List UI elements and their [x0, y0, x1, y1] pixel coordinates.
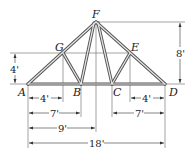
joint-label-d: D	[168, 86, 178, 99]
dim-7ft-right: 7'	[135, 108, 144, 119]
joint-label-b: B	[72, 86, 81, 99]
dim-4ft-left: 4'	[40, 93, 49, 104]
dim-8ft: 8'	[176, 48, 185, 59]
joint-label-a: A	[17, 86, 26, 99]
dim-4ft-vertical: 4'	[10, 64, 19, 75]
dim-7ft-left: 7'	[50, 108, 59, 119]
joint-label-f: F	[91, 8, 100, 21]
joint-label-c: C	[113, 86, 122, 99]
joint-label-e: E	[130, 41, 139, 54]
truss-diagram: 8' 4' 4' 4' 7' 7' 9' 18' A B C D E F G	[0, 0, 193, 158]
joint-label-g: G	[55, 41, 64, 54]
dim-18ft: 18'	[89, 138, 104, 149]
dim-9ft: 9'	[58, 123, 67, 134]
dim-4ft-right: 4'	[142, 93, 151, 104]
